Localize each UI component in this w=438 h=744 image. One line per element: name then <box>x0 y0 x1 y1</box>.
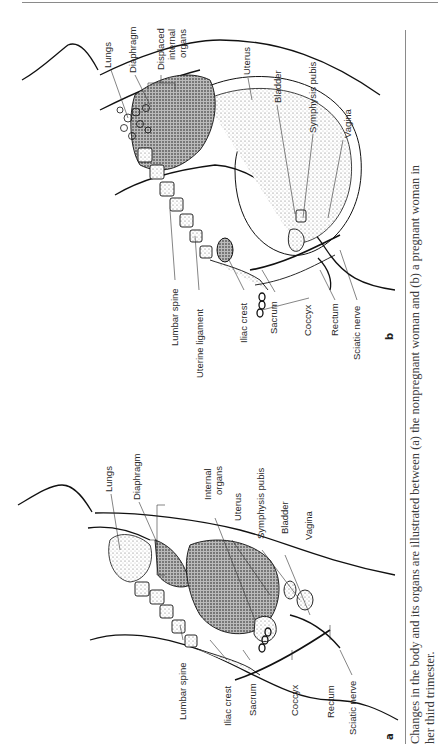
label-a-internal-2: organs <box>213 466 224 495</box>
label-a-internal-1: Internal <box>202 468 213 500</box>
label-a-vagina: Vagina <box>303 510 314 540</box>
label-b-displaced-2: internal <box>166 29 177 60</box>
label-b-uterus: Uterus <box>241 47 252 75</box>
label-b-rectum: Rectum <box>329 303 340 336</box>
caption-line-1: Changes in the body and its organs are i… <box>408 24 423 744</box>
figure-a-illustration <box>18 485 398 720</box>
label-a-lumbar-spine: Lumbar spine <box>177 662 188 720</box>
caption-line-2: her third trimester. <box>423 24 438 744</box>
label-a-symphysis: Symphysis pubis <box>255 467 266 539</box>
caption-rule <box>405 30 406 744</box>
anatomy-figure: Lungs Diaphragm Displaced internal organ… <box>0 0 438 744</box>
label-b-coccyx: Coccyx <box>302 305 313 336</box>
label-a-coccyx: Coccyx <box>289 685 300 716</box>
label-a-sacrum: Sacrum <box>247 683 258 716</box>
label-b-lungs: Lungs <box>102 42 113 68</box>
label-a-uterus: Uterus <box>232 493 243 521</box>
figure-b-illustration <box>22 40 395 317</box>
label-b-uterine-ligament: Uterine ligament <box>194 308 205 378</box>
label-b-sciatic-nerve: Sciatic nerve <box>351 306 362 360</box>
label-b-bladder: Bladder <box>272 70 283 103</box>
label-a-bladder: Bladder <box>279 501 290 534</box>
label-b-iliac-crest: Iliac crest <box>238 303 249 343</box>
panel-label-b: b <box>384 333 395 340</box>
label-b-displaced-1: Displaced <box>155 28 166 70</box>
label-b-vagina: Vagina <box>342 108 353 138</box>
label-a-sciatic-nerve: Sciatic nerve <box>347 681 358 735</box>
label-a-iliac-crest: Iliac crest <box>222 686 233 726</box>
label-b-symphysis: Symphysis pubis <box>307 61 318 133</box>
label-b-displaced-3: organs <box>177 29 188 58</box>
label-b-sacrum: Sacrum <box>268 301 279 334</box>
label-a-diaphragm: Diaphragm <box>131 453 142 500</box>
figure-caption: Changes in the body and its organs are i… <box>408 24 437 744</box>
label-a-rectum: Rectum <box>325 685 336 718</box>
label-b-lumbar-spine: Lumbar spine <box>169 288 180 346</box>
label-a-lungs: Lungs <box>103 466 114 492</box>
panel-label-a: a <box>384 733 395 740</box>
label-b-diaphragm: Diaphragm <box>127 26 138 73</box>
